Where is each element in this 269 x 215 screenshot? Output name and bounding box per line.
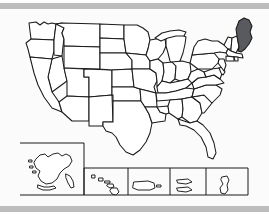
state-al[interactable] [168, 99, 183, 119]
state-ok[interactable] [112, 87, 141, 101]
state-ks[interactable] [112, 69, 134, 87]
contiguous-states-group [26, 18, 252, 159]
state-fl[interactable] [178, 119, 216, 159]
state-mi[interactable] [166, 34, 186, 65]
state-az[interactable] [59, 96, 89, 121]
territory-puerto-rico[interactable] [133, 181, 155, 190]
territory-usvi-stcroix[interactable] [177, 187, 192, 192]
territory-alaska-aleutians-a[interactable] [29, 160, 32, 162]
state-ny[interactable] [192, 39, 228, 55]
territory-hawaii-bigisland[interactable] [110, 188, 119, 195]
state-wy[interactable] [64, 46, 100, 69]
territory-puerto-rico-vieques[interactable] [157, 185, 161, 187]
state-pa[interactable] [190, 53, 219, 69]
territory-alaska-panhandle[interactable] [66, 174, 74, 188]
territory-usvi-stthomas[interactable] [177, 179, 192, 184]
territory-hawaii-oahu[interactable] [99, 178, 103, 181]
territories-group [29, 153, 229, 195]
territory-hawaii-molokai[interactable] [105, 181, 110, 183]
map-image-root: Map of the United States with Maine high… [0, 0, 269, 215]
state-ne[interactable] [100, 53, 132, 70]
territory-alaska-aleutians-b[interactable] [30, 166, 33, 168]
united-states-map [0, 9, 269, 206]
state-or[interactable] [26, 39, 54, 59]
state-in[interactable] [162, 62, 176, 83]
territory-hawaii-kauai[interactable] [92, 175, 95, 178]
territory-guam[interactable] [220, 176, 229, 194]
map-canvas: Map of the United States with Maine high… [0, 9, 269, 206]
state-id[interactable] [54, 23, 64, 56]
state-nd[interactable] [100, 24, 124, 39]
state-wa[interactable] [29, 22, 56, 40]
territory-alaska-aleutians-d[interactable] [38, 185, 56, 190]
bottom-frame-bar [0, 206, 269, 212]
state-ri[interactable] [234, 57, 238, 61]
state-ct[interactable] [226, 56, 234, 61]
state-sd[interactable] [100, 38, 126, 53]
territory-hawaii-maui[interactable] [107, 184, 114, 188]
state-mn[interactable] [124, 25, 150, 55]
state-nm[interactable] [89, 95, 113, 126]
territory-alaska-aleutians-c[interactable] [33, 171, 36, 173]
